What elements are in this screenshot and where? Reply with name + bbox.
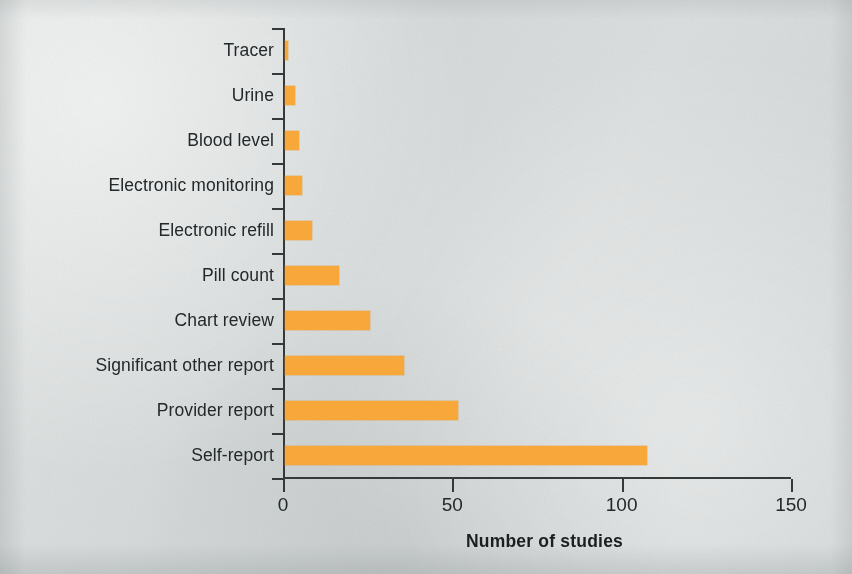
y-axis-tick	[272, 343, 285, 345]
category-label: Electronic refill	[4, 220, 274, 241]
y-axis-tick	[272, 73, 285, 75]
chart-row: Chart review	[0, 298, 852, 343]
y-axis-tick	[272, 478, 285, 480]
bar	[285, 266, 339, 285]
chart-row: Provider report	[0, 388, 852, 433]
bar	[285, 131, 299, 150]
bar	[285, 176, 302, 195]
chart-row: Blood level	[0, 118, 852, 163]
x-axis-tick-label: 0	[278, 494, 289, 516]
chart-row: Electronic monitoring	[0, 163, 852, 208]
chart-row: Self-report	[0, 433, 852, 478]
bar	[285, 311, 370, 330]
bar	[285, 446, 647, 465]
x-axis-title: Number of studies	[0, 531, 852, 552]
category-label: Pill count	[4, 265, 274, 286]
category-label: Self-report	[4, 445, 274, 466]
y-axis-tick	[272, 433, 285, 435]
bar-chart: TracerUrineBlood levelElectronic monitor…	[0, 0, 852, 574]
category-label: Tracer	[4, 40, 274, 61]
y-axis-tick	[272, 388, 285, 390]
bar	[285, 86, 295, 105]
y-axis-tick	[272, 28, 285, 30]
category-label: Blood level	[4, 130, 274, 151]
x-axis-tick	[622, 479, 624, 492]
chart-row: Pill count	[0, 253, 852, 298]
category-label: Chart review	[4, 310, 274, 331]
chart-row: Tracer	[0, 28, 852, 73]
category-label: Urine	[4, 85, 274, 106]
x-axis-title-text: Number of studies	[229, 531, 623, 551]
x-axis-tick	[791, 479, 793, 492]
bar	[285, 221, 312, 240]
x-axis-tick-label: 100	[606, 494, 638, 516]
x-axis-tick	[283, 479, 285, 492]
y-axis-tick	[272, 118, 285, 120]
category-label: Provider report	[4, 400, 274, 421]
y-axis-tick	[272, 208, 285, 210]
x-axis-tick-label: 50	[442, 494, 463, 516]
y-axis-tick	[272, 298, 285, 300]
category-label: Electronic monitoring	[4, 175, 274, 196]
y-axis-tick	[272, 253, 285, 255]
chart-row: Urine	[0, 73, 852, 118]
chart-row: Electronic refill	[0, 208, 852, 253]
chart-row: Significant other report	[0, 343, 852, 388]
chart-rows: TracerUrineBlood levelElectronic monitor…	[0, 28, 852, 478]
y-axis-tick	[272, 163, 285, 165]
x-axis-tick-label: 150	[775, 494, 807, 516]
category-label: Significant other report	[4, 355, 274, 376]
x-axis-tick	[452, 479, 454, 492]
bar	[285, 401, 458, 420]
figure-page: TracerUrineBlood levelElectronic monitor…	[0, 0, 852, 574]
bar	[285, 356, 404, 375]
bar	[285, 41, 288, 60]
